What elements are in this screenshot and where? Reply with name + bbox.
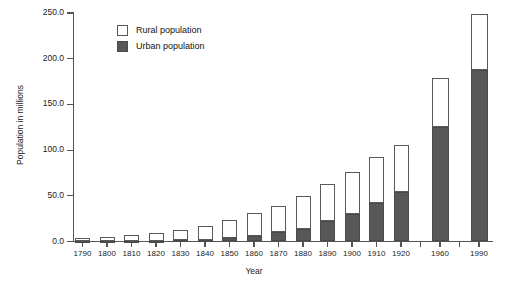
bar-1900 — [345, 172, 360, 241]
x-axis-tick-label: 1920 — [381, 249, 421, 258]
bar-segment-urban — [432, 127, 449, 242]
bar-segment-rural — [320, 184, 335, 221]
bar-1890 — [320, 184, 335, 241]
bar-segment-urban — [100, 241, 115, 243]
bar-segment-rural — [296, 196, 311, 229]
population-stacked-bar-chart: Population in millions Year 0.050.0100.0… — [0, 0, 508, 289]
bar-1850 — [222, 220, 237, 241]
bar-segment-rural — [369, 157, 384, 203]
y-axis-tick-label: 0.0 — [18, 236, 64, 246]
x-axis-tick — [204, 241, 205, 247]
x-axis-tick-label: 1960 — [420, 249, 460, 258]
bar-segment-rural — [432, 78, 449, 127]
bar-segment-rural — [173, 230, 188, 241]
y-axis-tick — [67, 12, 74, 13]
bar-1800 — [100, 237, 115, 242]
bar-segment-rural — [247, 213, 262, 236]
x-axis-tick — [400, 241, 401, 247]
legend-label-urban: Urban population — [136, 41, 205, 51]
x-axis-tick — [351, 241, 352, 247]
x-axis-tick — [278, 241, 279, 247]
bar-segment-rural — [198, 226, 213, 240]
y-axis-tick — [67, 241, 74, 242]
y-axis-tick-label: 100.0 — [18, 144, 64, 154]
y-axis-tick-label: 50.0 — [18, 190, 64, 200]
x-axis-tick — [327, 241, 328, 247]
x-axis-tick — [302, 241, 303, 247]
y-axis-line — [73, 12, 74, 242]
bar-segment-urban — [149, 241, 164, 243]
bar-1920 — [394, 145, 409, 242]
bar-1820 — [149, 233, 164, 242]
y-axis-tick-label: 200.0 — [18, 53, 64, 63]
y-axis-title: Population in millions — [15, 45, 25, 205]
x-axis-minor-tick — [459, 241, 460, 247]
x-axis-minor-tick — [420, 241, 421, 247]
bar-segment-rural — [471, 14, 488, 70]
x-axis-tick — [253, 241, 254, 247]
x-axis-tick — [478, 241, 479, 247]
x-axis-tick — [229, 241, 230, 247]
legend-item-urban: Urban population — [117, 38, 205, 54]
chart-legend: Rural population Urban population — [117, 22, 205, 54]
bar-segment-rural — [149, 233, 164, 241]
filled-square-swatch-icon — [117, 41, 128, 52]
bar-segment-urban — [75, 241, 90, 243]
bar-segment-rural — [394, 145, 409, 192]
bar-segment-rural — [345, 172, 360, 214]
bar-1990 — [471, 14, 488, 241]
bar-segment-urban — [296, 229, 311, 242]
bar-segment-urban — [394, 192, 409, 242]
legend-item-rural: Rural population — [117, 22, 205, 38]
bar-segment-urban — [124, 241, 139, 243]
y-axis-tick — [67, 195, 74, 196]
x-axis-tick — [439, 241, 440, 247]
x-axis-tick-label: 1990 — [459, 249, 499, 258]
bar-segment-rural — [222, 220, 237, 238]
bar-segment-urban — [320, 221, 335, 241]
bar-1790 — [75, 238, 90, 242]
bar-1810 — [124, 235, 139, 242]
y-axis-tick-label: 250.0 — [18, 7, 64, 17]
y-axis-tick — [67, 104, 74, 105]
bar-1910 — [369, 157, 384, 241]
x-axis-title: Year — [0, 266, 508, 276]
bar-1880 — [296, 196, 311, 242]
legend-label-rural: Rural population — [136, 25, 202, 35]
bar-segment-urban — [247, 236, 262, 242]
x-axis-tick — [376, 241, 377, 247]
bar-1860 — [247, 213, 262, 242]
bar-1960 — [432, 78, 449, 242]
open-square-swatch-icon — [117, 25, 128, 36]
bar-segment-urban — [471, 70, 488, 241]
bar-segment-urban — [222, 238, 237, 241]
y-axis-tick — [67, 150, 74, 151]
bar-1840 — [198, 226, 213, 242]
bar-segment-urban — [345, 214, 360, 242]
bar-segment-urban — [173, 240, 188, 242]
y-axis-tick-label: 150.0 — [18, 98, 64, 108]
bar-segment-urban — [271, 232, 286, 241]
bar-1830 — [173, 230, 188, 242]
bar-segment-urban — [198, 240, 213, 242]
bar-segment-rural — [271, 206, 286, 232]
y-axis-tick — [67, 58, 74, 59]
bar-segment-urban — [369, 203, 384, 241]
bar-1870 — [271, 206, 286, 241]
